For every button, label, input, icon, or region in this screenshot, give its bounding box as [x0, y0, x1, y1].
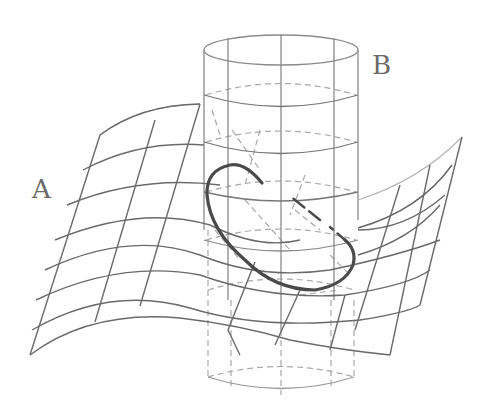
- diagram-canvas: A B: [0, 0, 481, 409]
- surface-cylinder-illustration: [0, 0, 481, 409]
- surface-a-label: A: [32, 176, 51, 202]
- cylinder-b-label: B: [372, 52, 391, 78]
- surface-a-grid: [30, 104, 462, 355]
